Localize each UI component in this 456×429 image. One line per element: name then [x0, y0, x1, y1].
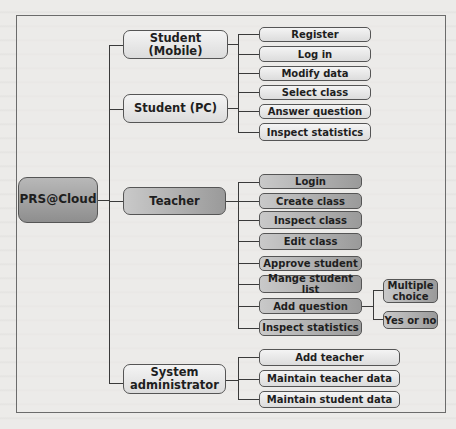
connector-teacher-leaf — [238, 241, 259, 242]
student-function-log-in: Log in — [259, 46, 371, 62]
connector-student-leaf — [238, 132, 259, 133]
branch-student-pc: Student (PC) — [123, 94, 228, 123]
connector-teacher-leaf — [238, 220, 259, 221]
student-function-modify-data: Modify data — [259, 66, 371, 81]
student-function-answer-question: Answer question — [259, 104, 371, 119]
branch-system-administrator: System administrator — [123, 364, 226, 394]
connector-question-leaf — [373, 319, 383, 320]
connector-admin-leaf — [238, 379, 259, 380]
connector-branch-mobile — [109, 45, 123, 46]
teacher-function-inspect-class: Inspect class — [259, 211, 362, 229]
connector-teacher-leaf — [238, 306, 259, 307]
teacher-function-create-class: Create class — [259, 193, 362, 209]
teacher-function-approve-student: Approve student — [259, 256, 362, 271]
connector-teacher-leaf — [238, 284, 259, 285]
connector-trunk — [109, 45, 110, 384]
connector-admin-leaf — [238, 399, 259, 400]
connector-admin-leaf — [238, 357, 259, 358]
teacher-function-edit-class: Edit class — [259, 233, 362, 250]
connector-student-leaf — [238, 92, 259, 93]
branch-teacher: Teacher — [123, 187, 226, 215]
connector-student-leaf — [238, 73, 259, 74]
connector-branch-pc — [109, 109, 123, 110]
question-type-yes-or-no: Yes or no — [383, 311, 438, 329]
admin-function-maintain-teacher-data: Maintain teacher data — [259, 370, 400, 387]
admin-function-maintain-student-data: Maintain student data — [259, 391, 400, 408]
connector-student-leaf — [238, 54, 259, 55]
connector-branch-admin — [109, 383, 123, 384]
connector-student-leaf — [238, 111, 259, 112]
teacher-function-add-question: Add question — [259, 298, 362, 314]
student-function-select-class: Select class — [259, 85, 371, 100]
root-node-prs-cloud: PRS@Cloud — [18, 177, 98, 223]
teacher-function-inspect-statistics: Inspect statistics — [259, 319, 362, 336]
teacher-function-manage-student-list: Mange student list — [259, 275, 362, 293]
connector-question-bus — [373, 290, 374, 320]
connector-student-bus — [238, 34, 239, 132]
connector-branch-teacher — [109, 201, 123, 202]
connector-teacher-leaf — [238, 328, 259, 329]
admin-function-add-teacher: Add teacher — [259, 349, 400, 366]
question-type-multiple-choice: Multiple choice — [383, 279, 438, 303]
connector-teacher-leaf — [238, 201, 259, 202]
student-function-register: Register — [259, 27, 371, 42]
connector-question-leaf — [373, 290, 383, 291]
student-function-inspect-statistics: Inspect statistics — [259, 123, 371, 141]
connector-teacher-leaf — [238, 182, 259, 183]
branch-student-mobile: Student (Mobile) — [123, 30, 228, 59]
connector-student-leaf — [238, 34, 259, 35]
connector-teacher-leaf — [238, 263, 259, 264]
teacher-function-login: Login — [259, 174, 362, 189]
